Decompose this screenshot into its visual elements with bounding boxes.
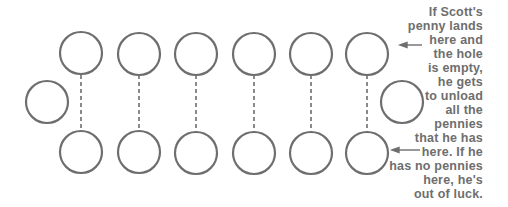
caption-line: that he has (353, 131, 483, 145)
top-pit-3 (175, 33, 217, 75)
explanation-caption: If Scott's penny lands here and the hole… (353, 5, 483, 201)
bottom-pit-1 (60, 131, 102, 173)
caption-line: the hole (353, 47, 483, 61)
caption-line: here, he's (353, 173, 483, 187)
caption-line: to unload (353, 89, 483, 103)
bottom-pit-2 (118, 131, 160, 173)
caption-line: If Scott's (353, 5, 483, 19)
caption-line: is empty, (353, 61, 483, 75)
caption-line: penny lands (353, 19, 483, 33)
top-pit-4 (233, 33, 275, 75)
caption-line: out of luck. (353, 187, 483, 201)
left-store-pit (26, 81, 68, 123)
caption-line: here. If he (353, 145, 483, 159)
caption-line: he gets (353, 75, 483, 89)
bottom-pit-5 (290, 132, 332, 174)
caption-line: here and (353, 33, 483, 47)
caption-line: pennies (353, 117, 483, 131)
bottom-pit-4 (233, 132, 275, 174)
caption-line: has no pennies (353, 159, 483, 173)
bottom-pit-3 (175, 132, 217, 174)
top-pit-1 (60, 32, 102, 74)
top-pit-5 (290, 33, 332, 75)
top-pit-2 (118, 33, 160, 75)
caption-line: all the (353, 103, 483, 117)
